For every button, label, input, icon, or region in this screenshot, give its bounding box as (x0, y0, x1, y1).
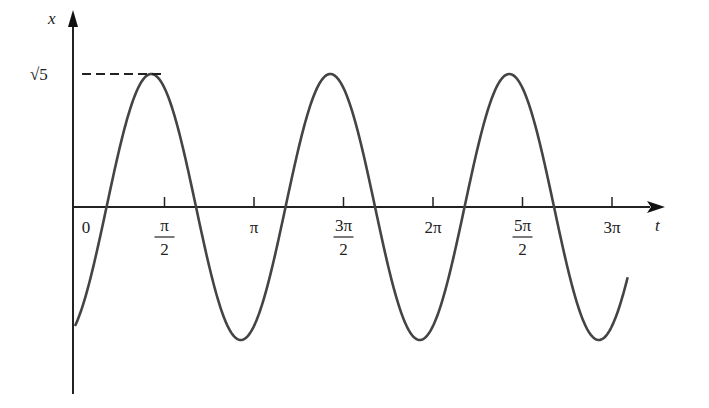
tick-label-numerator: π (160, 216, 169, 235)
tick-label-denominator: 2 (160, 240, 169, 259)
tick-label-numerator: 3π (335, 216, 353, 235)
axes (68, 10, 665, 394)
y-axis-arrow-icon (68, 10, 78, 27)
chart: 0π2π3π22π5π23πtx√5 (0, 0, 709, 408)
tick-labels: 0π2π3π22π5π23πtx√5 (30, 9, 661, 259)
tick-label: π (250, 218, 259, 237)
tick-label-numerator: 5π (514, 216, 532, 235)
tick-label-denominator: 2 (339, 240, 348, 259)
tick-label: 3π (603, 218, 621, 237)
x-axis-label: t (655, 216, 661, 235)
tick-label: 0 (82, 218, 91, 237)
tick-label: 2π (424, 218, 442, 237)
tick-label-denominator: 2 (518, 240, 527, 259)
y-axis-label: x (47, 9, 56, 28)
amplitude-label: √5 (30, 65, 48, 84)
